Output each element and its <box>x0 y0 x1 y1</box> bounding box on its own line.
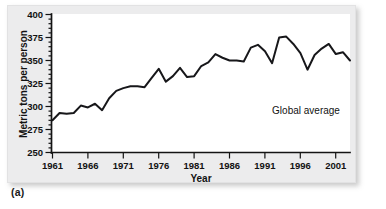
y-tick-label: 325 <box>27 78 44 89</box>
y-tick-label: 300 <box>27 101 43 112</box>
x-axis-ticks <box>53 153 336 159</box>
figure-panel: Metric tons per person <box>7 5 356 183</box>
x-tick-label: 1966 <box>77 160 98 171</box>
y-axis-tick-labels: 400 375 350 325 300 275 250 <box>27 9 44 158</box>
x-tick-label: 1991 <box>254 160 276 171</box>
figure-root: Metric tons per person <box>0 0 386 209</box>
x-tick-label: 1986 <box>219 160 240 171</box>
y-tick-label: 375 <box>27 32 44 43</box>
y-tick-label: 250 <box>27 147 43 158</box>
x-tick-label: 1971 <box>113 160 135 171</box>
x-axis-tick-labels: 1961 1966 1971 1976 1981 1986 1991 1996 … <box>42 160 347 171</box>
x-tick-label: 2001 <box>325 160 347 171</box>
x-axis-title: Year <box>190 173 211 184</box>
x-tick-label: 1961 <box>42 160 64 171</box>
figure-caption: (a) <box>11 186 24 198</box>
line-chart: Metric tons per person <box>8 6 357 184</box>
x-tick-label: 1976 <box>148 160 169 171</box>
x-tick-label: 1996 <box>290 160 311 171</box>
annotation-global-average: Global average <box>272 105 340 116</box>
y-tick-label: 275 <box>27 124 44 135</box>
x-tick-label: 1981 <box>184 160 206 171</box>
y-axis-ticks <box>46 15 52 153</box>
y-tick-label: 400 <box>27 9 43 20</box>
y-tick-label: 350 <box>27 55 43 66</box>
